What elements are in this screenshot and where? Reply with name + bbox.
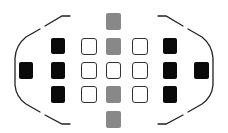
af-point-center-mid <box>106 62 121 79</box>
af-point-center-bottom-outer <box>106 111 121 128</box>
af-point-left-bottom <box>51 86 65 103</box>
af-point-left-top <box>51 38 65 54</box>
af-point-inner-right-mid <box>132 62 148 79</box>
af-point-inner-left-bottom <box>81 86 97 103</box>
af-point-inner-right-bottom <box>132 86 148 103</box>
af-point-left-mid <box>51 62 65 79</box>
af-point-center-top <box>106 38 121 55</box>
af-point-right-mid <box>163 62 177 79</box>
af-point-far-right <box>194 62 209 79</box>
af-point-right-top <box>163 38 177 54</box>
af-point-center-bottom <box>106 86 121 103</box>
af-point-center-top-outer <box>106 13 121 30</box>
af-point-inner-left-top <box>81 38 97 55</box>
af-points-diagram <box>0 0 228 133</box>
af-point-inner-left-mid <box>81 62 97 79</box>
af-point-inner-right-top <box>132 38 148 55</box>
af-point-far-left <box>19 62 33 79</box>
af-point-right-bottom <box>163 86 177 103</box>
